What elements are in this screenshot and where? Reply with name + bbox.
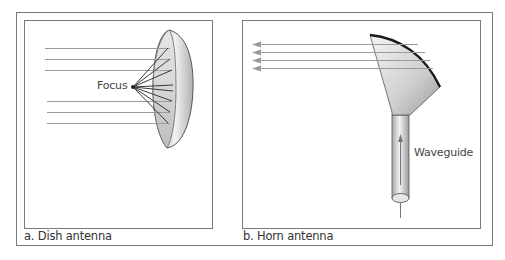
panel-b-frame xyxy=(243,21,481,229)
waveguide-label: Waveguide xyxy=(414,146,473,159)
panel-b-caption: b. Horn antenna xyxy=(243,229,333,243)
antenna-diagram xyxy=(0,0,505,260)
focus-point xyxy=(131,85,135,89)
ray-arrowheads xyxy=(252,42,261,72)
horn-antenna-illustration xyxy=(252,35,440,218)
waveguide-opening xyxy=(392,194,409,203)
focus-label: Focus xyxy=(97,79,127,92)
panel-a-caption: a. Dish antenna xyxy=(24,229,112,243)
outer-frame xyxy=(17,13,493,246)
